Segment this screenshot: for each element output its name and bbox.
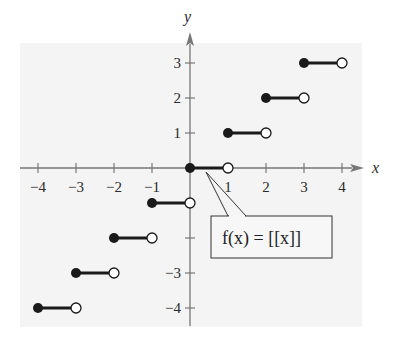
y-tick-label: −4: [165, 300, 181, 316]
y-axis-label: y: [182, 8, 192, 26]
closed-endpoint: [71, 268, 81, 278]
closed-endpoint: [33, 303, 43, 313]
open-endpoint: [223, 163, 233, 173]
open-endpoint: [337, 58, 347, 68]
function-label: f(x) = [[x]]: [222, 228, 301, 249]
y-tick-label: 3: [174, 55, 182, 71]
y-tick-label: 1: [174, 125, 182, 141]
x-axis-label: x: [371, 159, 379, 176]
open-endpoint: [109, 268, 119, 278]
open-endpoint: [261, 128, 271, 138]
y-tick-label: −3: [165, 265, 181, 281]
open-endpoint: [185, 198, 195, 208]
open-endpoint: [147, 233, 157, 243]
step-function-chart: xy −4−3−2−11234−4−3123 f(x) = [[x]]: [0, 0, 399, 342]
x-tick-label: −1: [144, 179, 160, 195]
closed-endpoint: [223, 128, 233, 138]
open-endpoint: [71, 303, 81, 313]
x-tick-label: −4: [30, 179, 46, 195]
open-endpoint: [299, 93, 309, 103]
x-tick-label: 3: [300, 179, 308, 195]
x-tick-label: 2: [262, 179, 270, 195]
x-tick-label: −3: [68, 179, 84, 195]
x-tick-label: −2: [106, 179, 122, 195]
closed-endpoint: [261, 93, 271, 103]
x-tick-label: 4: [338, 179, 346, 195]
closed-endpoint: [185, 163, 195, 173]
closed-endpoint: [109, 233, 119, 243]
closed-endpoint: [299, 58, 309, 68]
closed-endpoint: [147, 198, 157, 208]
y-tick-label: 2: [174, 90, 182, 106]
